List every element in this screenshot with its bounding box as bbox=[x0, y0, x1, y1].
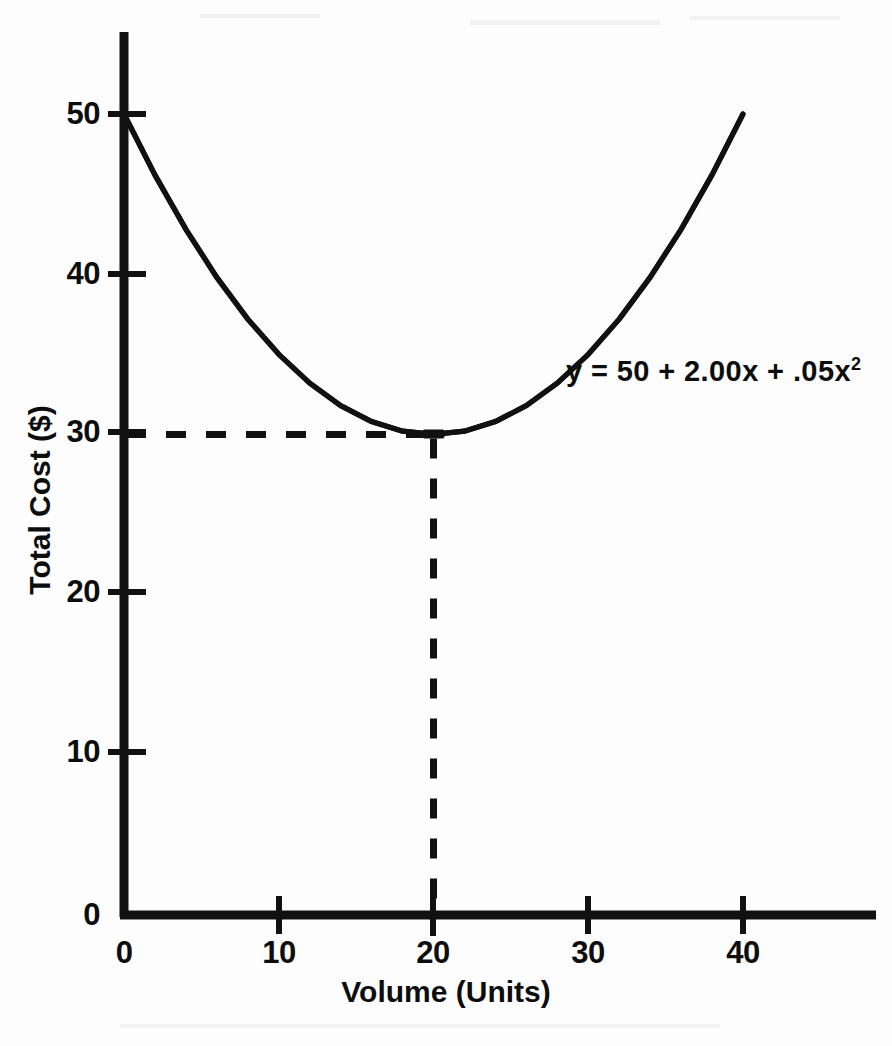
cost-equation-lead: y = 50 + 2.00x + .05x bbox=[566, 355, 851, 387]
cost-equation-exponent: 2 bbox=[851, 354, 861, 374]
y-axis-title: Total Cost ($) bbox=[23, 405, 57, 594]
y-tick-label-30: 30 bbox=[67, 414, 100, 450]
x-tick-label-40: 40 bbox=[726, 935, 759, 971]
y-tick-label-0: 0 bbox=[83, 897, 100, 933]
y-tick-label-10: 10 bbox=[67, 734, 100, 770]
chart-canvas bbox=[0, 0, 892, 1046]
minimum-marker bbox=[423, 429, 445, 438]
x-axis-title: Volume (Units) bbox=[341, 975, 550, 1009]
x-tick-label-0: 0 bbox=[116, 935, 133, 971]
reference-lines bbox=[126, 434, 441, 913]
cost-equation-annotation: y = 50 + 2.00x + .05x2 bbox=[566, 355, 861, 388]
x-tick-label-10: 10 bbox=[262, 935, 295, 971]
y-tick-label-20: 20 bbox=[67, 574, 100, 610]
axis-lines bbox=[120, 32, 876, 917]
chart-figure: 50 40 30 20 10 0 0 10 20 30 40 Total Cos… bbox=[0, 0, 892, 1046]
x-tick-label-20: 20 bbox=[416, 935, 449, 971]
y-tick-label-50: 50 bbox=[67, 96, 100, 132]
x-tick-label-30: 30 bbox=[571, 935, 604, 971]
y-tick-label-40: 40 bbox=[67, 256, 100, 292]
